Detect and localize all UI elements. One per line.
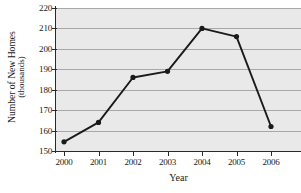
data-point-marker bbox=[234, 34, 239, 39]
line-chart: Number of New Homes (thousands) 15016017… bbox=[0, 0, 301, 193]
data-series-layer bbox=[0, 0, 301, 193]
y-axis-tick-mark bbox=[52, 8, 57, 9]
y-axis-tick-mark bbox=[52, 69, 57, 70]
data-point-marker bbox=[268, 124, 273, 129]
y-axis-tick-mark bbox=[52, 28, 57, 29]
series-line bbox=[64, 28, 271, 141]
data-point-marker bbox=[199, 26, 204, 31]
y-axis-tick-mark bbox=[52, 151, 57, 152]
data-point-marker bbox=[165, 69, 170, 74]
y-axis-tick-mark bbox=[52, 49, 57, 50]
data-point-marker bbox=[61, 139, 66, 144]
x-axis-title: Year bbox=[56, 172, 301, 183]
data-point-marker bbox=[130, 75, 135, 80]
y-axis-tick-mark bbox=[52, 131, 57, 132]
y-axis-tick-mark bbox=[52, 110, 57, 111]
y-axis-tick-mark bbox=[52, 90, 57, 91]
data-point-marker bbox=[96, 120, 101, 125]
